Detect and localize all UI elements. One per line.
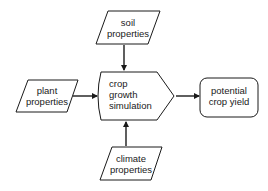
plant-label-line2: properties (26, 96, 68, 107)
node-potential-crop-yield: potential crop yield (200, 78, 258, 117)
soil-label-line1: soil (121, 17, 135, 28)
simulation-label-line2: growth (109, 89, 138, 100)
node-crop-growth-simulation: crop growth simulation (98, 72, 174, 120)
node-climate-properties: climate properties (100, 147, 162, 180)
plant-label-line1: plant (37, 85, 58, 96)
simulation-label-line3: simulation (109, 100, 152, 111)
soil-label-line2: properties (107, 28, 149, 39)
climate-label-line1: climate (116, 153, 146, 164)
node-plant-properties: plant properties (16, 80, 78, 112)
node-soil-properties: soil properties (96, 11, 160, 44)
flowchart-canvas: soil properties plant properties crop gr… (0, 0, 268, 191)
simulation-label-line1: crop (109, 78, 127, 89)
yield-label-line1: potential (211, 85, 247, 96)
yield-label-line2: crop yield (209, 96, 250, 107)
climate-label-line2: properties (110, 164, 152, 175)
